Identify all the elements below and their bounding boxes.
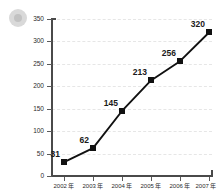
y-axis-tick — [47, 86, 52, 87]
y-axis-tick — [47, 131, 52, 132]
plot-area — [52, 19, 212, 176]
data-point-label: 256 — [136, 49, 176, 58]
data-point-label: 213 — [107, 68, 147, 77]
gridline — [52, 41, 212, 42]
data-point-marker — [177, 58, 183, 64]
y-axis-tick — [47, 64, 52, 65]
gridline — [52, 154, 212, 155]
x-axis-tick — [93, 177, 94, 181]
y-axis-tick-label: 100 — [20, 128, 44, 135]
y-axis-tick-label: 300 — [20, 38, 44, 45]
y-axis-tick — [47, 109, 52, 110]
data-point-marker — [119, 108, 125, 114]
y-axis-tick — [47, 176, 52, 177]
y-axis-tick — [47, 41, 52, 42]
x-axis-end-cap — [211, 170, 213, 177]
x-axis-tick — [151, 177, 152, 181]
gridline — [52, 131, 212, 132]
x-axis-tick-label: 2007 年 — [186, 183, 224, 189]
x-axis-line — [51, 175, 213, 177]
y-axis-tick-label: 150 — [20, 106, 44, 113]
y-axis-tick-label: 250 — [20, 61, 44, 68]
gridline — [52, 109, 212, 110]
data-point-label: 320 — [165, 20, 205, 29]
y-axis-tick — [47, 19, 52, 20]
gridline — [52, 86, 212, 87]
x-axis-tick — [122, 177, 123, 181]
data-point-marker — [206, 29, 212, 35]
data-point-label: 62 — [49, 136, 89, 145]
data-point-marker — [148, 77, 154, 83]
data-point-label: 31 — [20, 150, 60, 159]
data-point-label: 145 — [78, 99, 118, 108]
x-axis-tick — [209, 177, 210, 181]
y-axis-tick-label: 0 — [20, 173, 44, 180]
x-axis-tick — [180, 177, 181, 181]
chart-container: 350 300 250 200 150 100 50 0 2002 年 2003… — [0, 0, 224, 196]
y-axis-tick-label: 350 — [20, 16, 44, 23]
data-point-marker — [61, 159, 67, 165]
x-axis-tick — [64, 177, 65, 181]
data-point-marker — [90, 145, 96, 151]
gridline — [52, 64, 212, 65]
y-axis-tick-label: 200 — [20, 83, 44, 90]
